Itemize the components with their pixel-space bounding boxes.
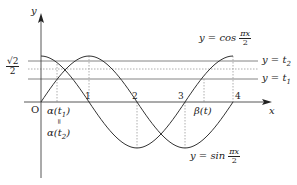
alpha-t2-label: α(t2) [47, 128, 70, 141]
tick-4: 4 [235, 92, 241, 101]
cos-equation-label: y = cos πx 2 [199, 30, 251, 48]
tick-2: 2 [132, 92, 138, 101]
y-axis-label: y [31, 6, 37, 16]
alpha-t1-label: α(t1) [47, 106, 70, 119]
beta-t-label: β(t) [194, 106, 212, 116]
t1-label: y = t1 [262, 73, 291, 86]
x-axis-label: x [269, 106, 275, 116]
sin-equation-label: y = sin πx 2 [190, 148, 240, 166]
tick-3: 3 [178, 92, 184, 101]
t2-label: y = t2 [262, 55, 291, 68]
graph-canvas [0, 0, 297, 185]
sqrt2-over-2-label: √2 2 [6, 57, 19, 77]
sqrt2-denominator: 2 [10, 67, 16, 76]
equals-sign: = [55, 119, 62, 125]
origin-label: O [31, 105, 39, 115]
tick-1: 1 [85, 92, 91, 101]
